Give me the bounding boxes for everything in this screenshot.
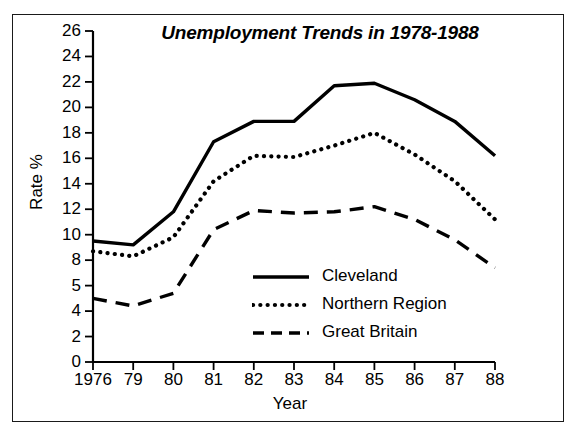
series-line-cleveland <box>93 83 495 245</box>
chart-legend: ClevelandNorthern RegionGreat Britain <box>252 264 502 348</box>
legend-label: Great Britain <box>322 322 417 342</box>
plot-area <box>0 0 578 439</box>
legend-item[interactable]: Great Britain <box>252 320 502 348</box>
legend-item[interactable]: Cleveland <box>252 264 502 292</box>
legend-swatch-solid <box>252 272 310 282</box>
legend-item[interactable]: Northern Region <box>252 292 502 320</box>
legend-label: Cleveland <box>322 266 398 286</box>
legend-swatch-dashed <box>252 328 310 338</box>
chart-figure: Unemployment Trends in 1978-1988 Rate % … <box>0 0 578 439</box>
legend-swatch-dotted <box>252 300 310 310</box>
series-line-northern-region <box>93 133 495 256</box>
legend-label: Northern Region <box>322 294 447 314</box>
